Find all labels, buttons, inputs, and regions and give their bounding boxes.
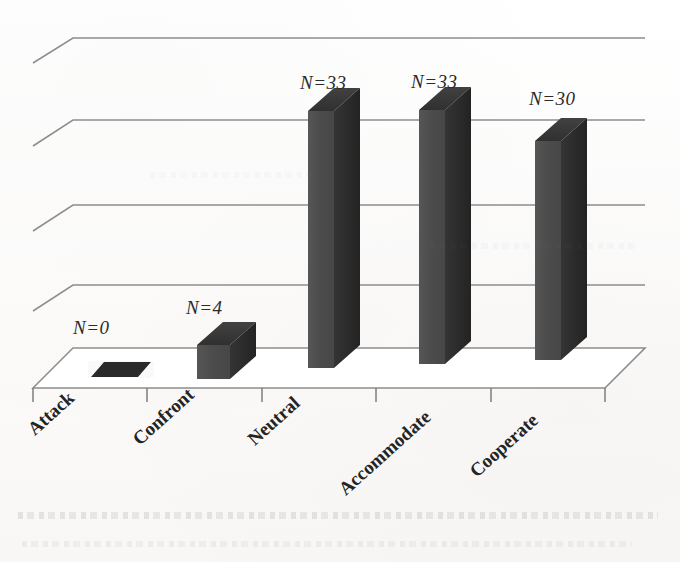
value-label-attack: N=0 xyxy=(73,317,110,339)
bar-cooperate xyxy=(535,118,587,360)
value-label-confront: N=4 xyxy=(186,297,223,319)
value-label-cooperate: N=30 xyxy=(529,88,576,110)
bar-cooperate-front xyxy=(535,141,561,360)
bar-accommodate xyxy=(419,87,471,364)
value-label-neutral: N=33 xyxy=(300,72,347,94)
bar-neutral-side xyxy=(334,88,360,368)
bar-accommodate-side xyxy=(445,87,471,364)
bar-neutral-front xyxy=(308,111,334,368)
bar-accommodate-front xyxy=(419,110,445,364)
bar-neutral xyxy=(308,88,360,368)
bar-confront-front xyxy=(197,345,230,379)
bar-cooperate-side xyxy=(561,118,587,360)
axis-ticks xyxy=(33,388,605,402)
figure-canvas: N=0 N=4 N=33 N=33 N=30 Attack Confront N… xyxy=(0,0,680,562)
gridline-4 xyxy=(33,38,645,63)
value-label-accommodate: N=33 xyxy=(411,71,458,93)
